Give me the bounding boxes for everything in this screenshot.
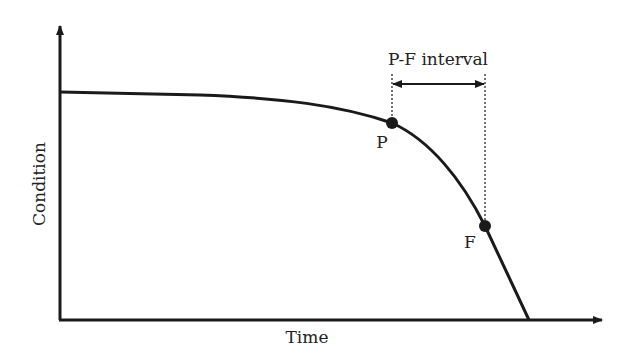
point-p-label: P (376, 132, 387, 152)
x-axis-label: Time (286, 327, 329, 347)
interval-label: P-F interval (388, 49, 488, 69)
point-p-marker (386, 117, 398, 129)
point-f-label: F (464, 232, 476, 252)
pf-curve-diagram: P-F interval P F Time Condition (0, 0, 634, 359)
condition-curve (60, 92, 529, 320)
y-axis-label: Condition (29, 142, 49, 226)
point-f-marker (479, 220, 491, 232)
